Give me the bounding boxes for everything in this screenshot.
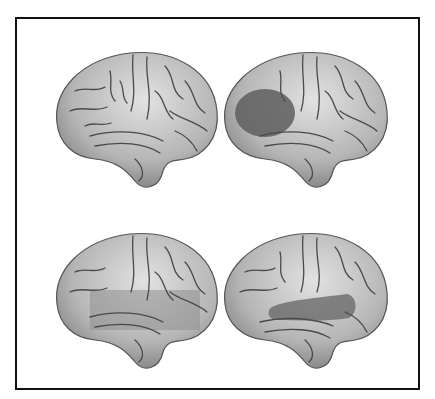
brain-icon — [217, 31, 407, 201]
figure-frame — [15, 17, 420, 390]
highlight-region — [90, 290, 200, 330]
brain-icon — [217, 212, 407, 382]
brain-panel-bottom-left — [35, 212, 225, 382]
brain-icon — [35, 31, 225, 201]
brain-icon — [35, 212, 225, 382]
brain-panel-bottom-right — [217, 212, 407, 382]
brain-panel-top-right — [217, 31, 407, 201]
highlight-region — [235, 89, 295, 137]
brain-panel-top-left — [35, 31, 225, 201]
